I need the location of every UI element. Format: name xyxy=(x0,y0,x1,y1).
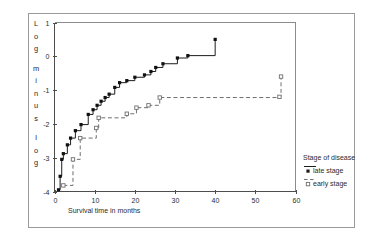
data-point xyxy=(108,93,111,96)
y-axis-title-char: l xyxy=(35,133,37,142)
data-point xyxy=(113,86,116,89)
data-point xyxy=(59,175,62,178)
data-point xyxy=(143,73,146,76)
data-point xyxy=(279,75,282,78)
data-point xyxy=(125,112,128,115)
x-tick-label: 30 xyxy=(172,197,180,204)
legend: Stage of disease late stageearly stage xyxy=(303,154,355,188)
x-axis-title: Survival time in months xyxy=(68,207,141,214)
data-point xyxy=(62,152,65,155)
data-point xyxy=(158,96,161,99)
data-point xyxy=(125,79,128,82)
legend-label: late stage xyxy=(313,167,343,175)
series-early-stage xyxy=(62,75,283,187)
data-point xyxy=(278,95,281,98)
data-point xyxy=(214,38,217,41)
y-axis-title-char: i xyxy=(35,76,37,85)
x-tick-label: 50 xyxy=(252,197,260,204)
data-point xyxy=(79,136,82,139)
x-tick-label: 0 xyxy=(54,197,58,204)
y-axis: 10-1-2-3-4 xyxy=(43,20,56,196)
data-point xyxy=(74,129,77,132)
y-tick-label: 0 xyxy=(46,53,50,60)
legend-marker xyxy=(306,170,309,173)
legend-item-early-stage[interactable]: early stage xyxy=(304,180,347,189)
data-point xyxy=(79,123,82,126)
data-point xyxy=(91,108,94,111)
legend-marker xyxy=(306,182,309,185)
data-point xyxy=(69,136,72,139)
y-tick-label: 1 xyxy=(46,20,50,27)
data-point xyxy=(147,104,150,107)
data-point xyxy=(186,54,189,57)
data-point xyxy=(118,81,121,84)
y-axis-title-char: s xyxy=(34,114,38,123)
chart-canvas: 10-1-2-3-4 0102030405060 Logminuslog Sur… xyxy=(0,0,379,244)
y-tick-label: -3 xyxy=(43,155,49,162)
y-tick-label: -2 xyxy=(43,121,49,128)
x-tick-label: 40 xyxy=(212,197,220,204)
series-line xyxy=(63,77,281,186)
survival-chart-figure: 10-1-2-3-4 0102030405060 Logminuslog Sur… xyxy=(0,0,379,244)
plot-box xyxy=(55,23,296,192)
data-point xyxy=(60,158,63,161)
y-axis-title: Logminuslog xyxy=(33,19,39,167)
data-point xyxy=(95,126,98,129)
series-line xyxy=(59,39,216,189)
x-tick-label: 10 xyxy=(92,197,100,204)
y-axis-title-char: o xyxy=(34,32,38,41)
x-axis: 0102030405060 xyxy=(54,190,301,204)
data-point xyxy=(161,62,164,65)
x-axis-tick-labels: 0102030405060 xyxy=(54,197,301,204)
y-axis-title-char: L xyxy=(34,19,38,28)
y-axis-title-char: m xyxy=(33,64,39,73)
data-point xyxy=(135,106,138,109)
data-point xyxy=(104,96,107,99)
data-point xyxy=(62,184,65,187)
y-axis-title-char: g xyxy=(34,44,38,53)
data-point xyxy=(149,70,152,73)
legend-item-late-stage[interactable]: late stage xyxy=(304,167,343,176)
x-tick-label: 20 xyxy=(132,197,140,204)
data-point xyxy=(87,113,90,116)
data-point xyxy=(176,56,179,59)
x-tick-label: 60 xyxy=(293,197,301,204)
data-point xyxy=(57,188,60,191)
data-point xyxy=(154,66,157,69)
y-tick-label: -4 xyxy=(43,189,49,196)
legend-title: Stage of disease xyxy=(303,154,355,162)
series-late-stage xyxy=(57,38,217,192)
y-tick-label: -1 xyxy=(43,87,49,94)
y-axis-title-char: n xyxy=(34,89,38,98)
data-point xyxy=(71,158,74,161)
data-point xyxy=(95,104,98,107)
y-axis-title-char: u xyxy=(34,101,38,110)
legend-items: late stageearly stage xyxy=(304,167,347,189)
data-point xyxy=(97,116,100,119)
y-axis-tick-labels: 10-1-2-3-4 xyxy=(43,20,49,196)
legend-label: early stage xyxy=(313,180,347,188)
data-series-layer xyxy=(57,38,283,192)
data-point xyxy=(66,143,69,146)
data-point xyxy=(99,100,102,103)
data-point xyxy=(133,76,136,79)
y-axis-title-char: o xyxy=(34,146,38,155)
y-axis-title-char: g xyxy=(34,158,38,167)
